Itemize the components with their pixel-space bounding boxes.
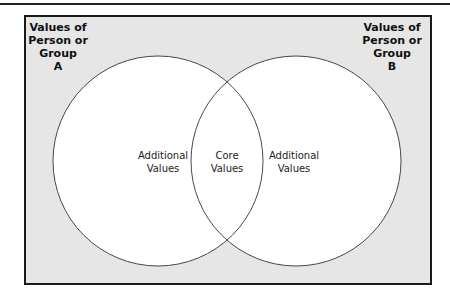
set-a-title: Values of Person or Group A: [18, 21, 98, 73]
set-b-title-line: Group: [352, 47, 432, 60]
set-a-title-line: Values of: [18, 21, 98, 34]
set-a-title-line: Person or: [18, 34, 98, 47]
set-b-title-line: Values of: [352, 21, 432, 34]
set-b-title-line: Person or: [352, 34, 432, 47]
set-a-title-line: A: [18, 60, 98, 73]
region-b-label: Additional Values: [254, 149, 334, 175]
set-b-title: Values of Person or Group B: [352, 21, 432, 73]
region-b-label-line: Values: [254, 162, 334, 175]
region-b-label-line: Additional: [254, 149, 334, 162]
set-b-title-line: B: [352, 60, 432, 73]
set-a-title-line: Group: [18, 47, 98, 60]
